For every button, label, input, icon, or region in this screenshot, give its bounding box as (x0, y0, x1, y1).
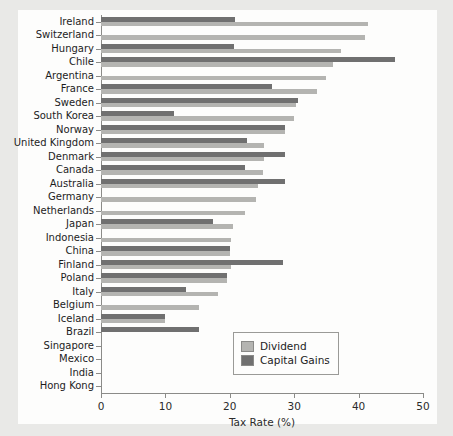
bar-row: Japan (101, 218, 423, 232)
category-label: Singapore (44, 341, 94, 351)
bar-row: Canada (101, 164, 423, 178)
bar-row: Hong Kong (101, 380, 423, 394)
category-label: Canada (56, 165, 94, 175)
bar-dividend (101, 211, 245, 216)
bar-dividend (101, 278, 227, 283)
bar-dividend (101, 49, 341, 54)
x-tick (423, 393, 424, 398)
category-label: Italy (72, 287, 94, 297)
x-tick (230, 393, 231, 398)
category-label: Sweden (54, 98, 94, 108)
category-label: Denmark (48, 152, 94, 162)
x-axis-line (101, 393, 423, 394)
x-tick-label: 30 (288, 400, 301, 412)
category-label: Chile (69, 57, 94, 67)
category-label: Indonesia (46, 233, 94, 243)
bar-dividend (101, 184, 258, 189)
bar-row: Argentina (101, 69, 423, 83)
bar-dividend (101, 62, 333, 67)
bar-row: Germany (101, 191, 423, 205)
category-label: United Kingdom (14, 138, 94, 148)
x-tick (294, 393, 295, 398)
bar-dividend (101, 157, 264, 162)
bar-row: Norway (101, 123, 423, 137)
bar-row: Sweden (101, 96, 423, 110)
bar-dividend (101, 305, 199, 310)
bar-row: Chile (101, 56, 423, 70)
x-axis-label: Tax Rate (%) (101, 416, 423, 428)
bar-row: Indonesia (101, 231, 423, 245)
category-label: Mexico (59, 354, 94, 364)
category-label: Hungary (51, 44, 94, 54)
category-label: Switzerland (36, 30, 94, 40)
legend-label-capital-gains: Capital Gains (260, 354, 330, 366)
x-tick (359, 393, 360, 398)
bar-row: Australia (101, 177, 423, 191)
figure-panel: 01020304050 IrelandSwitzerlandHungaryChi… (18, 10, 437, 424)
legend-swatch-capital-gains (241, 355, 254, 366)
category-label: South Korea (33, 111, 94, 121)
bar-row: Poland (101, 272, 423, 286)
bar-row: Switzerland (101, 29, 423, 43)
category-label: Hong Kong (40, 381, 94, 391)
bar-dividend (101, 143, 264, 148)
bar-dividend (101, 116, 294, 121)
category-label: Argentina (45, 71, 94, 81)
legend-item-capital-gains: Capital Gains (241, 354, 330, 366)
category-label: India (69, 368, 94, 378)
bar-dividend (101, 103, 296, 108)
category-label: Germany (48, 192, 94, 202)
category-label: Australia (50, 179, 94, 189)
bar-dividend (101, 197, 256, 202)
category-label: Brazil (66, 327, 94, 337)
category-label: Norway (56, 125, 94, 135)
x-tick (101, 393, 102, 398)
x-tick (165, 393, 166, 398)
category-label: Japan (66, 219, 94, 229)
bar-row: Belgium (101, 299, 423, 313)
legend-label-dividend: Dividend (260, 340, 307, 352)
bar-dividend (101, 251, 230, 256)
bar-row: Denmark (101, 150, 423, 164)
x-tick-label: 10 (159, 400, 172, 412)
x-tick-label: 20 (223, 400, 236, 412)
bar-row: France (101, 83, 423, 97)
bar-row: Italy (101, 285, 423, 299)
category-label: Poland (61, 273, 94, 283)
bar-capital-gains (101, 327, 199, 332)
category-label: Netherlands (33, 206, 94, 216)
bar-dividend (101, 170, 263, 175)
bar-dividend (101, 130, 285, 135)
bar-row: China (101, 245, 423, 259)
bar-dividend (101, 35, 365, 40)
bar-row: Hungary (101, 42, 423, 56)
bar-dividend (101, 76, 326, 81)
bar-dividend (101, 292, 218, 297)
bar-dividend (101, 89, 317, 94)
x-tick-label: 0 (98, 400, 105, 412)
category-label: Ireland (59, 17, 94, 27)
legend-item-dividend: Dividend (241, 340, 330, 352)
bar-row: Finland (101, 258, 423, 272)
legend-swatch-dividend (241, 341, 254, 352)
bar-row: Netherlands (101, 204, 423, 218)
bar-dividend (101, 224, 233, 229)
category-label: France (61, 84, 94, 94)
category-label: Finland (58, 260, 94, 270)
bar-dividend (101, 319, 165, 324)
bar-row: Ireland (101, 15, 423, 29)
bar-dividend (101, 22, 368, 27)
bar-dividend (101, 238, 231, 243)
bar-row: South Korea (101, 110, 423, 124)
x-tick-label: 50 (416, 400, 429, 412)
legend: Dividend Capital Gains (233, 332, 339, 375)
bar-dividend (101, 265, 231, 270)
bar-row: Iceland (101, 312, 423, 326)
x-tick-label: 40 (352, 400, 365, 412)
category-label: China (65, 246, 94, 256)
category-label: Belgium (53, 300, 94, 310)
category-label: Iceland (58, 314, 94, 324)
bar-row: United Kingdom (101, 137, 423, 151)
